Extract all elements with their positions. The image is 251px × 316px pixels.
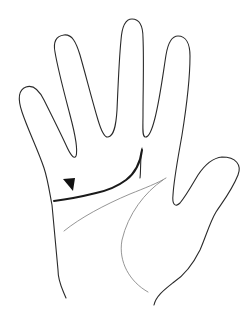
arrowhead-icon [63,178,75,191]
hand-outline [19,19,239,305]
hand-diagram [0,0,251,316]
transverse-crease [54,150,142,201]
thenar-crease [121,180,163,292]
